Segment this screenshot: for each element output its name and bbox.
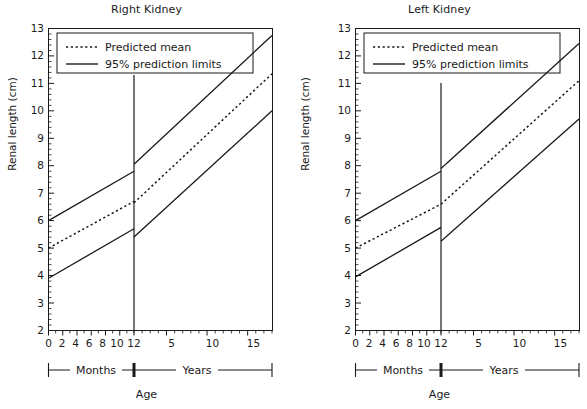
x-tick-label-month: 10 — [110, 337, 123, 349]
panel-left-kidney: Left Kidney Renal length (cm) 13 12 — [293, 0, 586, 409]
y-tick-label: 6 — [37, 214, 44, 226]
x-tick-label-month: 10 — [417, 337, 430, 349]
x-tick-label-month: 4 — [72, 337, 79, 349]
y-axis-ticks — [49, 29, 55, 331]
y-tick-label: 9 — [344, 132, 351, 144]
x-tick-label-month: 0 — [352, 337, 359, 349]
bracket-label-years: Years — [488, 364, 518, 377]
x-tick-label-year: 5 — [475, 337, 482, 349]
y-axis-ticks — [356, 29, 362, 331]
bracket-label-months: Months — [383, 364, 423, 377]
y-tick-label: 7 — [37, 187, 44, 199]
x-tick-label-year: 15 — [247, 337, 260, 349]
x-tick-label-year: 5 — [168, 337, 175, 349]
y-tick-label: 5 — [37, 242, 44, 254]
y-tick-label: 13 — [338, 22, 351, 34]
x-tick-label-month: 0 — [45, 337, 52, 349]
x-tick-label-month: 12 — [127, 337, 140, 349]
legend-label-prediction-limits: 95% prediction limits — [105, 58, 222, 71]
y-tick-label: 11 — [31, 77, 44, 89]
y-tick-label: 11 — [338, 77, 351, 89]
y-tick-label: 10 — [338, 104, 351, 116]
x-tick-label-month: 2 — [366, 337, 373, 349]
plot-frame — [49, 29, 273, 331]
y-tick-label: 2 — [37, 324, 44, 336]
series-predicted-mean — [356, 81, 580, 248]
y-tick-label: 9 — [37, 132, 44, 144]
series-lower-limit — [49, 111, 273, 278]
y-tick-label: 3 — [37, 297, 44, 309]
y-tick-label: 13 — [31, 22, 44, 34]
x-tick-label-month: 12 — [434, 337, 447, 349]
x-tick-label-month: 8 — [99, 337, 106, 349]
x-tick-label-month: 8 — [406, 337, 413, 349]
bracket-label-months: Months — [76, 364, 116, 377]
legend-label-predicted-mean: Predicted mean — [412, 41, 498, 54]
y-tick-label: 4 — [344, 269, 351, 281]
series-predicted-mean — [49, 74, 273, 248]
y-tick-label: 2 — [344, 324, 351, 336]
x-tick-label-month: 2 — [59, 337, 66, 349]
plot-svg-left-kidney: 13 12 11 10 9 8 7 6 5 4 3 2 0 2 4 6 8 10… — [293, 0, 586, 409]
x-axis-label-right-panel: Age — [293, 388, 586, 401]
y-tick-label: 12 — [31, 49, 44, 61]
kidney-growth-figure: Right Kidney Renal length (cm) — [0, 0, 587, 409]
x-tick-label-month: 6 — [393, 337, 400, 349]
y-tick-label: 12 — [338, 49, 351, 61]
x-tick-label-year: 10 — [206, 337, 219, 349]
y-tick-label: 4 — [37, 269, 44, 281]
y-tick-label: 5 — [344, 242, 351, 254]
bracket-label-years: Years — [181, 364, 211, 377]
y-tick-label: 7 — [344, 187, 351, 199]
x-tick-label-year: 10 — [513, 337, 526, 349]
y-tick-label: 3 — [344, 297, 351, 309]
y-tick-label: 6 — [344, 214, 351, 226]
x-axis-ticks — [49, 331, 273, 336]
y-tick-label: 10 — [31, 104, 44, 116]
series-lower-limit — [356, 119, 580, 277]
y-tick-label: 8 — [37, 159, 44, 171]
x-axis-ticks — [356, 331, 580, 336]
x-tick-label-year: 15 — [554, 337, 567, 349]
legend-label-prediction-limits: 95% prediction limits — [412, 58, 529, 71]
y-tick-label: 8 — [344, 159, 351, 171]
legend-label-predicted-mean: Predicted mean — [105, 41, 191, 54]
x-tick-label-month: 4 — [379, 337, 386, 349]
x-tick-label-month: 6 — [86, 337, 93, 349]
plot-svg-right-kidney: 13 12 11 10 9 8 7 6 5 4 3 2 0 2 4 6 8 10… — [0, 0, 293, 409]
x-axis-label-left-panel: Age — [0, 388, 293, 401]
panel-right-kidney: Right Kidney Renal length (cm) — [0, 0, 293, 409]
